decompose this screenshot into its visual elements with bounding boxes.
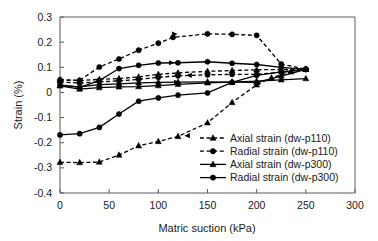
data-point-marker: [57, 132, 62, 137]
data-point-marker: [210, 175, 215, 180]
x-tick-label: 100: [150, 199, 168, 211]
data-point-marker: [279, 70, 284, 75]
data-point-marker: [116, 111, 121, 116]
data-point-marker: [205, 59, 210, 64]
chart-container: 0.30.20.10-0.1-0.2-0.3-0.4 0501001502002…: [0, 0, 378, 241]
data-point-marker: [116, 66, 121, 71]
data-point-marker: [254, 33, 259, 38]
data-point-marker: [97, 64, 102, 69]
legend-item-label: Radial strain (dw-p110): [230, 145, 338, 157]
data-point-marker: [77, 81, 82, 86]
y-tick-label: -0.3: [34, 161, 52, 173]
data-point-marker: [116, 56, 121, 61]
y-tick-label: 0.1: [37, 61, 52, 73]
y-tick-label: 0.2: [37, 36, 52, 48]
y-tick-label: 0: [46, 86, 52, 98]
data-point-marker: [97, 125, 102, 130]
chart-legend: Axial strain (dw-p110)Radial strain (dw-…: [196, 128, 354, 188]
data-point-marker: [229, 72, 234, 77]
data-point-marker: [156, 95, 161, 100]
data-point-marker: [205, 72, 210, 77]
x-tick-label: 300: [346, 199, 364, 211]
data-point-marker: [205, 31, 210, 36]
data-point-marker: [175, 93, 180, 98]
data-point-marker: [77, 131, 82, 136]
y-axis-title: Strain (%): [12, 81, 24, 130]
data-point-marker: [210, 149, 215, 154]
x-tick-label: 150: [199, 199, 217, 211]
x-tick-label: 200: [248, 199, 266, 211]
data-point-marker: [156, 75, 161, 80]
x-tick-label: 250: [297, 199, 315, 211]
data-point-marker: [136, 99, 141, 104]
data-point-marker: [156, 41, 161, 46]
data-point-marker: [229, 32, 234, 37]
data-point-marker: [57, 79, 62, 84]
y-tick-label: 0.3: [37, 11, 52, 23]
x-tick-label: 50: [103, 199, 115, 211]
data-point-marker: [303, 67, 308, 72]
legend-item-label: Axial strain (dw-p300): [230, 158, 332, 170]
data-point-marker: [156, 60, 161, 65]
x-tick-label: 0: [57, 199, 63, 211]
data-point-marker: [97, 79, 102, 84]
y-tick-label: -0.1: [34, 111, 52, 123]
legend-item-label: Axial strain (dw-p110): [230, 132, 331, 144]
data-point-marker: [229, 61, 234, 66]
legend-item-label: Radial strain (dw-p300): [230, 171, 339, 183]
data-point-marker: [175, 73, 180, 78]
data-point-marker: [136, 77, 141, 82]
x-axis-title: Matric suction (kPa): [158, 222, 255, 234]
y-tick-label: -0.2: [34, 136, 52, 148]
data-point-marker: [175, 60, 180, 65]
data-point-marker: [136, 63, 141, 68]
y-tick-label: -0.4: [34, 187, 52, 199]
data-point-marker: [254, 72, 259, 77]
data-point-marker: [116, 78, 121, 83]
data-point-marker: [205, 90, 210, 95]
strain-vs-matric-suction-chart: 0.30.20.10-0.1-0.2-0.3-0.4 0501001502002…: [0, 0, 378, 241]
data-point-marker: [136, 48, 141, 53]
